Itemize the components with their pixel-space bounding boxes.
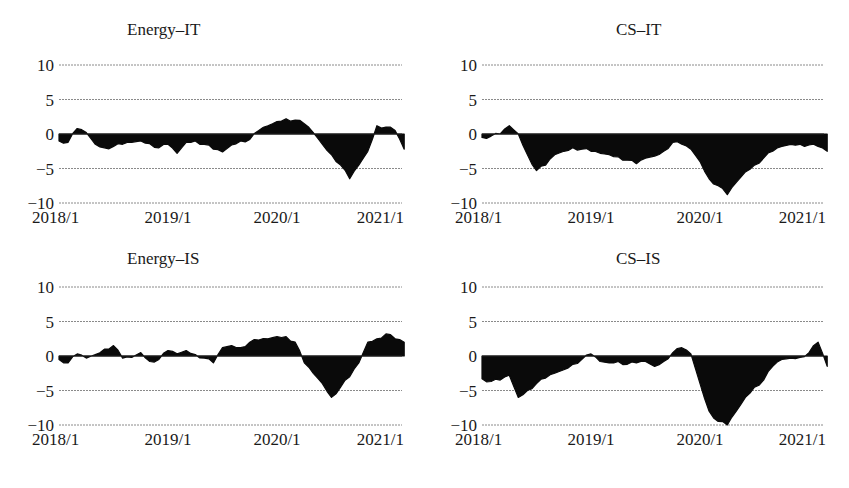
panel-title: Energy–IT [127,20,201,39]
x-tick-label: 2021/1 [357,208,404,227]
y-tick-label: 5 [469,91,478,110]
x-tick-label: 2019/1 [144,208,191,227]
y-tick-label: 10 [460,278,477,297]
panel-cs-is: 1050−5−102018/12019/12020/12021/1CS–IS [450,249,827,449]
x-tick-label: 2021/1 [779,430,826,449]
x-tick-label: 2018/1 [455,430,502,449]
x-tick-label: 2020/1 [676,430,723,449]
y-tick-label: 10 [460,56,477,75]
y-tick-label: 0 [46,125,55,144]
y-tick-label: −5 [36,382,54,401]
y-tick-label: −5 [459,160,477,179]
x-tick-label: 2019/1 [567,430,614,449]
area-series [59,119,404,179]
y-tick-label: 0 [469,347,478,366]
x-tick-label: 2021/1 [357,430,404,449]
x-tick-label: 2018/1 [455,208,502,227]
y-tick-label: −5 [459,382,477,401]
y-tick-label: 5 [46,313,55,332]
panel-energy-it: 1050−5−102018/12019/12020/12021/1Energy–… [27,20,404,227]
y-tick-label: 10 [37,278,54,297]
area-series [59,334,404,398]
area-series [482,342,827,425]
y-tick-label: 5 [469,313,478,332]
x-tick-label: 2020/1 [253,430,300,449]
x-tick-label: 2019/1 [144,430,191,449]
y-tick-label: 0 [469,125,478,144]
y-tick-label: 5 [46,91,55,110]
x-tick-label: 2018/1 [32,208,79,227]
panel-energy-is: 1050−5−102018/12019/12020/12021/1Energy–… [27,249,404,449]
x-tick-label: 2018/1 [32,430,79,449]
y-tick-label: 10 [37,56,54,75]
panel-title: Energy–IS [127,249,199,268]
x-tick-label: 2021/1 [779,208,826,227]
area-series [482,126,827,195]
y-tick-label: −5 [36,160,54,179]
panel-title: CS–IS [616,249,660,268]
x-tick-label: 2020/1 [253,208,300,227]
panel-title: CS–IT [616,20,662,39]
panel-cs-it: 1050−5−102018/12019/12020/12021/1CS–IT [450,20,827,227]
x-tick-label: 2020/1 [676,208,723,227]
chart-figure: 1050−5−102018/12019/12020/12021/1Energy–… [0,0,849,488]
y-tick-label: 0 [46,347,55,366]
x-tick-label: 2019/1 [567,208,614,227]
